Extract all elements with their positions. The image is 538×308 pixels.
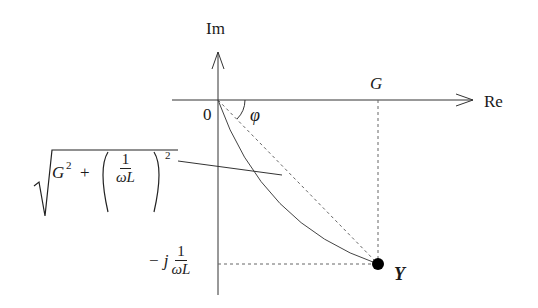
- imag-fraction: 1 ωL: [171, 244, 190, 277]
- left-paren: [103, 152, 108, 212]
- imag-fraction-den: ωL: [171, 261, 190, 277]
- imag-value-label: − j 1 ωL: [148, 244, 190, 277]
- magnitude-plus-sign: +: [80, 164, 90, 181]
- magnitude-leader-line: [178, 161, 282, 175]
- origin-label: 0: [203, 106, 212, 123]
- imag-fraction-num: 1: [175, 244, 187, 261]
- magnitude-paren-exponent: 2: [165, 150, 171, 161]
- phasor-dashed-line: [218, 100, 378, 264]
- angle-arc: [237, 100, 245, 119]
- minus-j-text: − j: [148, 252, 168, 269]
- admittance-point: [372, 258, 384, 270]
- real-axis-label: Re: [484, 93, 503, 110]
- magnitude-fraction-num: 1: [120, 152, 132, 169]
- angle-phi-label: φ: [250, 106, 260, 124]
- y-point-label: Y: [394, 265, 405, 283]
- g-label: G: [370, 75, 382, 92]
- magnitude-fraction-den: ωL: [116, 169, 135, 185]
- diagram-canvas: [0, 0, 538, 308]
- magnitude-g-text: G: [52, 164, 64, 181]
- sqrt-radical-icon: [34, 150, 178, 216]
- magnitude-g-exponent: 2: [66, 160, 72, 171]
- imag-axis-label: Im: [206, 20, 225, 37]
- magnitude-fraction: 1 ωL: [116, 152, 135, 185]
- right-paren: [154, 152, 159, 212]
